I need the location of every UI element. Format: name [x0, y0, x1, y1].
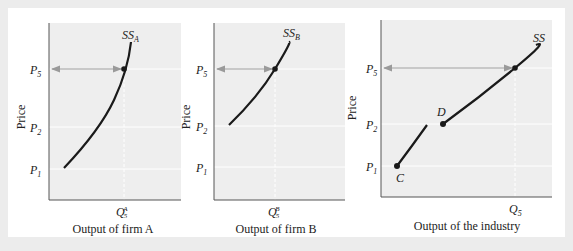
x-axis-title: Output of firm A	[73, 222, 154, 236]
label-c: C	[396, 171, 405, 185]
panel-industry: SS D C P5 P2 P1 Price Q5 Output of the i…	[345, 20, 552, 233]
equilibrium-point	[121, 66, 127, 72]
x-tick-q5: Q5	[509, 202, 522, 218]
supply-charts: SSA P5 P2 P1 Price Q5A Output of firm A …	[0, 0, 573, 251]
x-axis-title: Output of the industry	[414, 219, 520, 233]
y-tick-p5: P5	[365, 62, 377, 78]
curve-label: SS	[533, 31, 545, 45]
x-tick-q5b: Q5B	[268, 205, 280, 220]
y-tick-p2: P2	[195, 120, 207, 136]
equilibrium-point	[512, 65, 518, 71]
x-tick-q5a: Q5A	[116, 205, 128, 220]
plot-area	[381, 20, 552, 197]
plot-area	[214, 23, 345, 200]
y-tick-p5: P5	[195, 63, 207, 79]
y-axis-title: Price	[179, 105, 193, 130]
y-tick-p1: P1	[365, 160, 377, 176]
y-axis-title: Price	[345, 96, 359, 121]
equilibrium-point	[272, 66, 278, 72]
label-d: D	[436, 105, 446, 119]
point-c	[394, 163, 400, 169]
point-d	[440, 121, 446, 127]
y-axis-title: Price	[14, 105, 28, 130]
x-axis-title: Output of firm B	[236, 222, 317, 236]
plot-area	[49, 23, 181, 200]
panel-firm-a: SSA P5 P2 P1 Price Q5A Output of firm A	[14, 23, 181, 236]
y-tick-p2: P2	[365, 118, 377, 134]
y-tick-p1: P1	[195, 161, 207, 177]
y-tick-p5: P5	[29, 63, 41, 79]
panel-firm-b: SSB P5 P2 P1 Price Q5B Output of firm B	[179, 23, 345, 236]
y-tick-p2: P2	[29, 121, 41, 137]
y-tick-p1: P1	[29, 163, 41, 179]
